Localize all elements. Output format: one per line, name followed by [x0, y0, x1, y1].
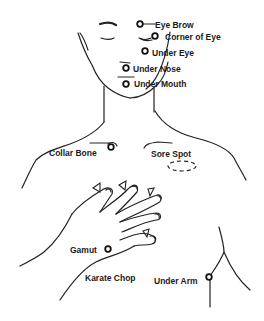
index-finger: [72, 188, 112, 214]
corner-of-eye-point: [152, 33, 158, 39]
under-arm-label: Under Arm: [154, 276, 198, 286]
torso-side: Under Arm: [154, 227, 250, 307]
nose-mark: [120, 62, 130, 63]
index-fingernail: [106, 189, 111, 192]
eye-brow-label: Eye Brow: [155, 20, 194, 30]
under-nose-point: [123, 65, 129, 71]
arm-front-line: [224, 252, 250, 290]
under-arm-point: [206, 274, 212, 280]
eyebrow-left: [100, 23, 116, 25]
under-mouth-point: [123, 81, 129, 87]
sore-spot-label: Sore Spot: [151, 149, 191, 159]
chest-points: Collar Bone Sore Spot: [49, 143, 196, 171]
finger-tap-marker-2: [119, 181, 126, 190]
little-fingernail: [155, 214, 159, 218]
under-eye-point: [142, 48, 148, 54]
gamut-point: [105, 246, 111, 252]
finger-tap-marker-1: [93, 183, 100, 192]
ring-finger: [116, 196, 161, 222]
eye-left: [101, 38, 114, 40]
under-nose-label: Under Nose: [133, 64, 181, 74]
finger-tap-marker-3: [148, 188, 154, 196]
under-eye-label: Under Eye: [152, 48, 194, 58]
shoulder-right: [155, 111, 246, 180]
eye-brow-point: [137, 21, 143, 27]
arm-back-line: [210, 227, 224, 276]
tapping-points-diagram: Eye Brow Corner of Eye Under Eye Under N…: [0, 0, 264, 321]
hand-back-edge: [20, 214, 72, 266]
corner-of-eye-label: Corner of Eye: [165, 32, 221, 42]
little-finger: [120, 213, 161, 232]
face-points: Eye Brow Corner of Eye Under Eye Under N…: [118, 20, 221, 89]
sore-spot-area: [168, 161, 196, 171]
collar-line-right: [144, 142, 172, 148]
under-mouth-label: Under Mouth: [134, 79, 186, 89]
karate-chop-label: Karate Chop: [85, 273, 136, 283]
collar-bone-label: Collar Bone: [49, 148, 97, 158]
collar-bone-point: [108, 144, 114, 150]
gamut-label: Gamut: [70, 245, 97, 255]
